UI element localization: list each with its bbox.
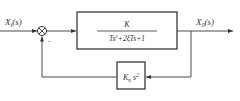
forward-numerator: K: [123, 20, 130, 29]
forward-denominator: Ts2+2ξTs+1: [109, 34, 145, 43]
block-diagram: Xi(s) − K Ts2+2ξTs+1 X0(s) Kn s2: [0, 0, 240, 101]
input-label: Xi(s): [4, 17, 22, 28]
summing-junction: [38, 27, 47, 36]
feedback-sign: −: [47, 38, 52, 46]
output-label: X0(s): [195, 17, 214, 28]
forward-transfer-block: [77, 12, 177, 49]
